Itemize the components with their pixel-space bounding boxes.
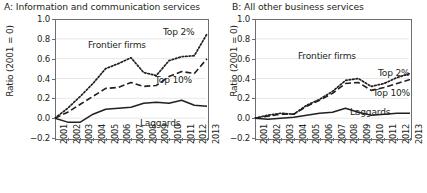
y-tick-mark bbox=[52, 98, 55, 99]
x-tick-mark bbox=[410, 138, 411, 141]
y-tick-mark bbox=[252, 19, 255, 20]
x-tick-mark bbox=[156, 138, 157, 141]
x-tick-mark bbox=[68, 138, 69, 141]
y-tick-mark bbox=[52, 118, 55, 119]
x-tick-mark bbox=[333, 138, 334, 141]
x-tick-mark bbox=[182, 138, 183, 141]
y-tick-label: −0.2 bbox=[24, 133, 50, 143]
y-tick-label: 1.0 bbox=[224, 14, 250, 24]
panel-b-label-top10: Top 10% bbox=[373, 88, 410, 98]
x-tick-mark bbox=[397, 138, 398, 141]
y-tick-mark bbox=[252, 59, 255, 60]
panel-a-label-top2: Top 2% bbox=[163, 27, 194, 37]
x-tick-mark bbox=[80, 138, 81, 141]
y-tick-label: 0.8 bbox=[24, 34, 50, 44]
x-tick-mark bbox=[281, 138, 282, 141]
y-tick-mark bbox=[252, 118, 255, 119]
panel-b-label-top2: Top 2% bbox=[378, 68, 409, 78]
x-tick-mark bbox=[93, 138, 94, 141]
x-tick-mark bbox=[144, 138, 145, 141]
panel-a-label-top10: Top 10% bbox=[155, 75, 192, 85]
y-tick-mark bbox=[52, 39, 55, 40]
x-tick-mark bbox=[345, 138, 346, 141]
panel-b: B: All other business services Ratio (20… bbox=[210, 0, 421, 193]
x-tick-mark bbox=[358, 138, 359, 141]
y-tick-label: 1.0 bbox=[24, 14, 50, 24]
panel-a: A: Information and communication service… bbox=[0, 0, 211, 193]
y-tick-label: 0.6 bbox=[224, 54, 250, 64]
y-tick-label: 0.4 bbox=[24, 74, 50, 84]
x-tick-mark bbox=[55, 138, 56, 141]
y-tick-label: 0.6 bbox=[24, 54, 50, 64]
y-tick-label: 0.8 bbox=[224, 34, 250, 44]
panel-b-label-laggards: Laggards bbox=[350, 107, 390, 117]
y-tick-label: 0.2 bbox=[24, 93, 50, 103]
x-tick-label: 2013 bbox=[414, 124, 424, 144]
x-tick-mark bbox=[106, 138, 107, 141]
y-tick-label: −0.2 bbox=[224, 133, 250, 143]
x-tick-mark bbox=[194, 138, 195, 141]
x-tick-mark bbox=[169, 138, 170, 141]
x-tick-mark bbox=[255, 138, 256, 141]
x-tick-mark bbox=[371, 138, 372, 141]
y-tick-label: 0.4 bbox=[224, 74, 250, 84]
series-line-laggards bbox=[55, 100, 207, 122]
y-tick-label: 0.0 bbox=[224, 113, 250, 123]
x-tick-mark bbox=[294, 138, 295, 141]
y-tick-mark bbox=[252, 98, 255, 99]
series-line-top-10 bbox=[55, 59, 207, 119]
panel-b-label-frontier: Frontier firms bbox=[298, 51, 356, 61]
x-tick-mark bbox=[320, 138, 321, 141]
y-tick-mark bbox=[52, 59, 55, 60]
x-tick-mark bbox=[118, 138, 119, 141]
y-tick-mark bbox=[52, 19, 55, 20]
x-tick-mark bbox=[268, 138, 269, 141]
panel-a-label-laggards: Laggards bbox=[140, 118, 180, 128]
y-tick-label: 0.2 bbox=[224, 93, 250, 103]
y-tick-mark bbox=[252, 39, 255, 40]
x-tick-mark bbox=[307, 138, 308, 141]
panel-a-label-frontier: Frontier firms bbox=[88, 40, 146, 50]
y-tick-mark bbox=[252, 79, 255, 80]
x-tick-mark bbox=[384, 138, 385, 141]
y-tick-mark bbox=[52, 79, 55, 80]
x-tick-mark bbox=[131, 138, 132, 141]
x-tick-mark bbox=[207, 138, 208, 141]
y-tick-label: 0.0 bbox=[24, 113, 50, 123]
